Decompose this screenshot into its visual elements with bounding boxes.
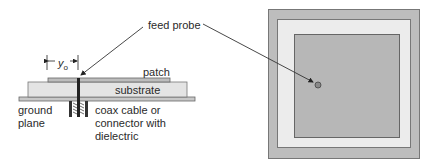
y0-label: yo bbox=[58, 57, 68, 74]
feed-probe-arrow-left bbox=[81, 27, 143, 75]
coax-outer-right bbox=[85, 101, 88, 117]
microstrip-patch-diagram bbox=[0, 0, 438, 164]
feed-probe-pin bbox=[77, 78, 80, 117]
coax-label-3: dielectric bbox=[95, 130, 138, 142]
coax-label-2: connector with bbox=[95, 117, 166, 129]
ground-plane-label-1: ground bbox=[18, 104, 52, 116]
feed-probe-point bbox=[315, 82, 321, 88]
patch-top bbox=[295, 35, 400, 138]
y0-subscript: o bbox=[64, 63, 68, 72]
top-view bbox=[203, 10, 420, 159]
feed-probe-label: feed probe bbox=[148, 19, 201, 31]
ground-plane bbox=[19, 97, 195, 101]
patch bbox=[48, 78, 170, 82]
substrate bbox=[28, 82, 187, 97]
substrate-label: substrate bbox=[115, 84, 160, 96]
ground-plane-label-2: plane bbox=[18, 117, 45, 129]
coax-outer-left bbox=[69, 101, 72, 117]
patch-label: patch bbox=[143, 66, 170, 78]
coax-label-1: coax cable or bbox=[95, 104, 160, 116]
